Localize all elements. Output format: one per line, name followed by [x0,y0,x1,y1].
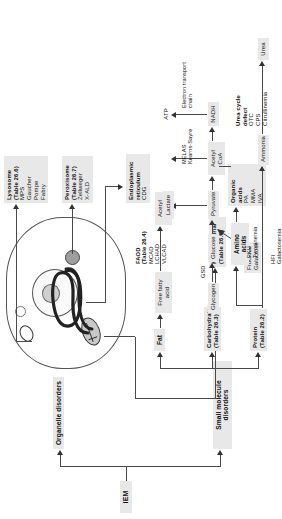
peroxisome-table: (Table 26.7) [71,159,78,200]
edge-mito-h2 [135,337,136,399]
arrow-pyruvate-acetylcoa [209,176,215,181]
node-endoplasmic-reticulum: Endoplasmic reticulum CDG [126,154,150,203]
node-acetyl-coa-bottom: Acetyl CoA [208,142,225,175]
node-atp: ATP [161,103,172,125]
arrow-aminoacids-organicacids [233,207,239,212]
arrow-fat-ffa [157,314,163,319]
endoplasmic-reticulum-icon [46,265,94,337]
arrow-er [118,184,123,190]
edge-to-small-molecule [220,455,221,467]
peroxisome-items: Zellweger X-ALD [77,159,90,200]
node-glycogen: Glycogen [208,283,219,313]
node-nadh: NADH [208,102,219,126]
protein-table: (Table 26.2) [259,312,266,348]
arrow-to-organelle [57,450,63,455]
edge-er-h1 [105,187,106,303]
node-urea-cycle-defect: Urea cycle defect OTC CPS Citrullinemia [233,73,266,129]
edge-acetylcoa-nadh [212,132,213,141]
edge-aminoacids-organicacids [236,212,237,222]
arrow-protein-ammonia [259,166,265,171]
arrow-to-carbs [209,352,215,357]
label-electron-transport-chain: Electron transport chain [179,57,196,111]
edge-organicacids-up [219,166,231,167]
edge-mito-v1 [104,336,135,337]
edge-peroxisome-h [72,209,73,254]
edge-iem-vertical [60,466,220,467]
arrow-glycogen-glucose [209,263,215,268]
edge-protein-ammonia [262,171,263,308]
edge-to-carbs [212,357,213,369]
edge-er-v1 [86,302,105,303]
node-lysosome: Lysosome (Table 26.6) MPS Gaucher Pompe … [4,156,48,203]
carbohydrates-table: (Table 26.3) [213,310,220,348]
edge-glycogen-glucose [212,268,213,282]
arrow-glucose-pyruvate [209,220,215,225]
arrow-ammonia-urea [259,61,265,66]
edge-lysosome-v [16,341,32,342]
edge-iem-trunk [126,467,127,481]
node-pyruvate: Pyruvate [208,191,219,219]
node-lactate: Lactate [163,191,174,219]
arrow-peroxisome [69,204,75,209]
arrow-to-small-molecule [217,450,223,455]
faod-items: MCAD LCHAD VLCAD [148,226,167,264]
label-gsd: GSD [198,267,208,281]
peroxisome-title: Peroxisome [64,159,71,200]
edge-to-organelle [60,455,61,467]
label-pku-tyrosinemia: PKU Tyrosinemia [244,221,261,261]
protein-title: Protein [252,312,259,348]
urea-cycle-title: Urea cycle defect [235,76,248,126]
arrow-acetylcoa-up [171,156,176,162]
edge-small-trunk-v [160,368,258,369]
edge-protein-branch-v [236,305,262,306]
carbohydrates-title: Carbohydrates [206,310,213,348]
edge-to-protein [258,357,259,369]
arrow-lysosome [13,204,19,209]
node-ammonia: Ammonia [258,135,266,165]
edge-pyruvate-lactate [176,205,207,206]
node-urea: Urea [258,38,266,60]
node-faod: FAOD (Table 26.4) MCAD LCHAD VLCAD [133,223,169,267]
arrow-nadh-atp [171,112,176,118]
edge-mito-v2 [135,398,215,399]
arrow-to-fat [157,352,163,357]
node-organelle-disorders: Organelle disorders [53,377,64,449]
diagram-canvas: IEM Organelle disorders Small molecule d… [0,0,266,519]
arrow-acetylcoa-nadh [209,127,215,132]
node-iem: IEM [120,481,132,513]
edge-glucose-pyruvate [212,225,213,233]
lysosome-table: (Table 26.6) [13,159,20,200]
urea-cycle-items: OTC CPS Citrullinemia [248,76,266,126]
label-mito-diseases: MELAS Kearns-Sayre [179,123,196,167]
edge-pyruvate-acetylcoa [212,181,213,190]
organic-acids-title: Organic acids [230,167,243,203]
er-title: Endoplasmic reticulum [128,157,141,200]
arrow-to-protein [255,352,261,357]
node-peroxisome: Peroxisome (Table 26.7) Zellweger X-ALD [62,156,93,203]
edge-er-v2 [105,186,118,187]
node-free-fatty-acid: Free fatty acid [155,272,172,313]
node-carbohydrates: Carbohydrates (Table 26.3) [204,307,221,351]
edge-lysosome-h [16,209,17,342]
node-protein: Protein (Table 26.2) [250,309,266,351]
edge-nadh-atp [176,114,207,115]
er-items: CDG [141,157,148,200]
organic-acids-items: PA MMA IVA [243,167,263,203]
edge-fat-ffa [160,319,161,328]
edge-to-fat [160,357,161,369]
edge-protein-aminoacids [236,271,237,306]
faod-table: (Table 26.4) [141,226,147,264]
node-fat: Fat [154,329,165,351]
lysosome-title: Lysosome [6,159,13,200]
cell-illustration [6,219,124,369]
arrow-protein-aminoacids [233,266,239,271]
lysosome-items: MPS Gaucher Pompe Fabry [19,159,46,200]
